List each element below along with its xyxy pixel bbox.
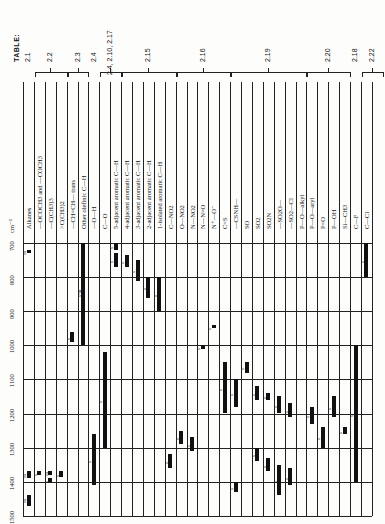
band-intensity-label: s xyxy=(229,394,234,396)
axis-tick-label: 700 xyxy=(8,241,15,251)
group-label: 2.3 xyxy=(74,52,81,62)
table-title: TABLE: xyxy=(13,34,20,62)
band-intensity-label: s xyxy=(218,389,223,391)
column-line xyxy=(67,82,68,516)
group-brace xyxy=(35,72,68,77)
grid-line xyxy=(23,243,372,244)
group-label: 2.22 xyxy=(368,48,375,62)
absorption-band xyxy=(223,362,227,413)
column-line xyxy=(372,82,373,516)
band-intensity-label: s xyxy=(55,475,60,477)
axis-tick-label: 1400 xyxy=(8,477,15,490)
group-label: 2.19 xyxy=(264,48,271,62)
column-label: Si—CH3 xyxy=(341,205,348,229)
column-label: Alkanes xyxy=(25,208,32,229)
absorption-band xyxy=(103,352,107,447)
column-label: —O—H xyxy=(90,207,97,229)
column-line xyxy=(56,82,57,516)
absorption-band xyxy=(136,260,140,280)
column-label: C=S xyxy=(221,217,228,229)
column-line xyxy=(230,82,231,516)
grid-line xyxy=(23,379,372,380)
band-intensity-label: s-m xyxy=(77,290,82,298)
band-intensity-label: m xyxy=(22,500,27,504)
column-line xyxy=(187,82,188,516)
group-label: 2.15 xyxy=(144,48,151,62)
group-brace xyxy=(177,72,232,77)
brace-tip xyxy=(78,68,79,72)
column-label: —SO2O— xyxy=(276,200,283,229)
grid-line xyxy=(23,414,372,415)
column-line xyxy=(350,82,351,516)
column-line xyxy=(45,82,46,516)
column-line xyxy=(208,82,209,516)
column-line xyxy=(110,82,111,516)
group-label: 2.4 xyxy=(90,52,97,62)
absorption-band xyxy=(27,495,31,505)
band-intensity-label: s xyxy=(284,478,289,480)
absorption-band xyxy=(354,345,358,481)
absorption-band xyxy=(27,250,31,253)
band-intensity-label: s xyxy=(229,488,234,490)
grid-line xyxy=(23,448,372,449)
column-line xyxy=(143,82,144,516)
column-label: —CH=CH— trans xyxy=(69,180,76,229)
column-line xyxy=(132,82,133,516)
band-intensity-label: s xyxy=(251,394,256,396)
column-label: P—OH xyxy=(330,209,337,229)
column-label: 2-adjacent aromatic C—H xyxy=(145,160,152,229)
column-label: N—N=O xyxy=(199,205,206,229)
brace-tip xyxy=(148,68,149,72)
column-label: SO2N xyxy=(265,213,272,229)
column-label: —C(CH3)3 xyxy=(47,198,54,229)
axis-tick-label: 900 xyxy=(8,309,15,319)
column-label: P=O xyxy=(319,217,326,229)
band-intensity-label: m xyxy=(44,472,49,476)
band-intensity-label: m xyxy=(22,251,27,255)
brace-tip xyxy=(328,68,329,72)
band-intensity-label: s xyxy=(327,408,332,410)
absorption-band xyxy=(27,471,31,478)
band-intensity-label: m xyxy=(22,474,27,478)
grid-line xyxy=(23,277,372,278)
column-label: C—F xyxy=(352,215,359,229)
group-label: 2.2 xyxy=(46,52,53,62)
band-intensity-label: s xyxy=(349,415,354,417)
band-intensity-label: s xyxy=(153,295,158,297)
axis-tick-label: 1100 xyxy=(8,375,15,388)
column-line xyxy=(328,82,329,516)
column-line xyxy=(285,82,286,516)
band-intensity-label: s xyxy=(207,328,212,330)
brace-tip xyxy=(268,68,269,72)
absorption-band xyxy=(277,396,281,413)
absorption-band xyxy=(343,427,347,434)
brace-tip xyxy=(203,68,204,72)
column-line xyxy=(176,82,177,516)
brace-tip xyxy=(110,68,111,72)
column-line xyxy=(78,82,79,516)
absorption-band xyxy=(245,362,249,372)
axis-unit-label: cm⁻¹ xyxy=(8,219,16,233)
grid-line xyxy=(23,482,372,483)
band-intensity-label: s xyxy=(186,445,191,447)
column-label: 5-adjacent aromatic C—H xyxy=(112,160,119,229)
axis-tick-label: 800 xyxy=(8,275,15,285)
column-line xyxy=(296,82,297,516)
column-line xyxy=(99,82,100,516)
column-label: —CSNH— xyxy=(232,199,239,229)
band-intensity-label: s xyxy=(131,271,136,273)
absorption-band xyxy=(234,379,238,406)
column-label: 3-adjacent aromatic C—H xyxy=(134,160,141,229)
column-label: C—O xyxy=(101,213,108,229)
absorption-band xyxy=(234,482,238,492)
column-line xyxy=(361,82,362,516)
absorption-band xyxy=(70,332,74,342)
grid-line xyxy=(23,345,372,346)
column-line xyxy=(88,82,89,516)
column-line xyxy=(197,82,198,516)
column-label: O—NO2 xyxy=(178,205,185,229)
band-intensity-label: s xyxy=(273,406,278,408)
column-label: N—NO2 xyxy=(189,205,196,229)
band-intensity-label: s xyxy=(87,461,92,463)
axis-tick-label: 1500 xyxy=(8,511,15,524)
